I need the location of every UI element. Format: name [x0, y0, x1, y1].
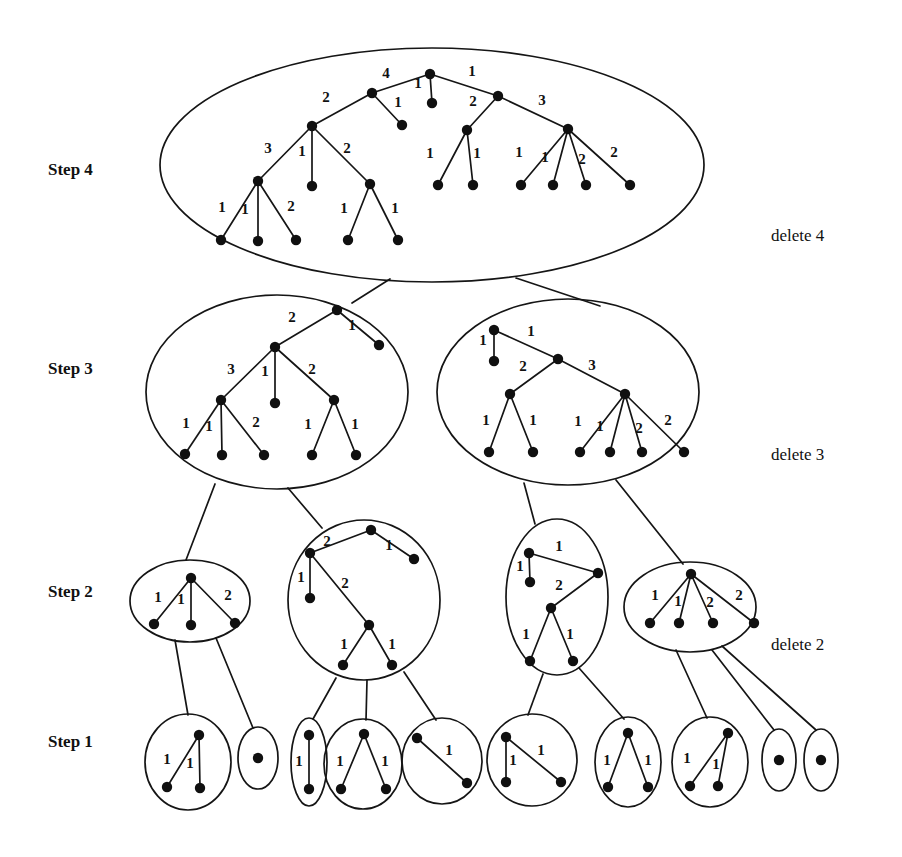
group-ellipse-g3b — [437, 299, 699, 485]
edge-weight-label: 2 — [323, 533, 331, 549]
tree-node-n2a_b — [186, 620, 196, 630]
tree-node-n3b_la — [484, 447, 494, 457]
tree-node-n3b_mid — [553, 354, 563, 364]
tree-node-n1c_t — [304, 730, 314, 740]
tree-node-n3a_d — [307, 450, 317, 460]
edge-weight-label: 2 — [469, 93, 477, 109]
tree-edge-n3a_ml-n3a_a — [185, 400, 221, 454]
tree-node-n2d_b — [674, 618, 684, 628]
tree-node-n4_LLa — [253, 176, 263, 186]
edge-weight-label: 1 — [304, 416, 312, 432]
edge-weight-label: 2 — [664, 412, 672, 428]
tree-node-n3b_rc — [637, 447, 647, 457]
tree-node-n3b_r — [620, 389, 630, 399]
tree-node-n4_RRa — [516, 180, 526, 190]
tree-node-n3b_lb — [528, 447, 538, 457]
tree-node-n4_RRd — [625, 180, 635, 190]
edge-weight-label: 1 — [541, 149, 549, 165]
tree-node-n4_RR — [563, 124, 573, 134]
edge-weight-label: 2 — [706, 594, 714, 610]
tree-edge-n2b_l-n2b_m — [310, 553, 369, 625]
step-label-step-2: Step 2 — [48, 582, 93, 601]
tree-node-n3a_mm — [270, 398, 280, 408]
tree-node-n1i_c — [774, 755, 784, 765]
tree-node-n2b_r1 — [409, 554, 419, 564]
edge-weight-label: 2 — [288, 309, 296, 325]
edge-weight-label: 2 — [224, 587, 232, 603]
tree-node-n4_R — [493, 91, 503, 101]
tree-edge-n3a_m-n3a_mr — [275, 347, 334, 400]
tree-node-n4_L — [367, 88, 377, 98]
group-ellipse-g1f — [487, 714, 577, 806]
edge-weight-label: 4 — [382, 65, 390, 81]
tree-node-n2c_top — [524, 548, 534, 558]
tree-edge-n4_root-n4_R — [430, 74, 498, 96]
group-link-edge-13 — [676, 650, 707, 718]
tree-node-n3a_a — [180, 449, 190, 459]
group-link-edge-10 — [404, 672, 436, 720]
edge-weight-label: 2 — [252, 414, 260, 430]
tree-edge-n3a_ml-n3a_b — [221, 400, 222, 455]
edge-weight-label: 2 — [635, 420, 643, 436]
step-label-step-3: Step 3 — [48, 359, 93, 378]
group-link-edge-8 — [313, 678, 336, 719]
group-link-edge-7 — [216, 638, 253, 728]
tree-node-n2b_root — [366, 525, 376, 535]
tree-edge-n3b_top-n3b_mid — [494, 330, 558, 359]
edge-weight-label: 1 — [445, 742, 453, 758]
edge-weight-label: 1 — [603, 752, 611, 768]
edge-weight-label: 2 — [578, 151, 586, 167]
group-link-edge-3 — [288, 488, 322, 528]
group-link-edge-4 — [524, 483, 535, 524]
tree-edge-n1g_t-n1g_l — [608, 733, 628, 787]
tree-node-n2b_ma — [338, 660, 348, 670]
tree-node-n1a_l — [162, 782, 172, 792]
tree-edge-n3a_root-n3a_m — [275, 310, 337, 347]
tree-node-n1h_r — [713, 781, 723, 791]
tree-node-n2d_d — [749, 618, 759, 628]
tree-node-n3a_root — [332, 305, 342, 315]
tree-node-n4_LLc — [365, 179, 375, 189]
tree-edge-n4_LL-n4_LLc — [312, 126, 370, 184]
edge-weight-label: 1 — [674, 593, 682, 609]
tree-node-n1c_b — [304, 784, 314, 794]
edge-weight-label: 1 — [555, 538, 563, 554]
tree-node-n4_RL — [462, 125, 472, 135]
tree-node-n2b_mb — [387, 660, 397, 670]
tree-node-n4_RRc — [581, 180, 591, 190]
edge-weight-label: 2 — [610, 144, 618, 160]
tree-node-n2c_r — [593, 568, 603, 578]
edge-weight-label: 1 — [381, 753, 389, 769]
tree-node-n2a_a — [149, 619, 159, 629]
tree-node-n1f_br — [556, 777, 566, 787]
tree-node-n2b_ll — [305, 593, 315, 603]
edge-weight-label: 1 — [186, 755, 194, 771]
edge-weight-label: 1 — [340, 200, 348, 216]
tree-node-n2d_a — [645, 618, 655, 628]
tree-nodes — [149, 69, 826, 794]
group-ellipses — [130, 48, 838, 810]
tree-node-n3b_tc — [489, 356, 499, 366]
edge-weight-label: 2 — [341, 575, 349, 591]
tree-node-n4_x4 — [343, 235, 353, 245]
tree-node-n2c_mb — [568, 656, 578, 666]
tree-node-n1d_l — [336, 784, 346, 794]
tree-node-n4_x2 — [253, 236, 263, 246]
tree-node-n1d_r — [381, 784, 391, 794]
tree-node-n1b_c — [253, 753, 263, 763]
edge-weight-label: 1 — [537, 742, 545, 758]
tree-node-n1h_l — [685, 781, 695, 791]
edge-weight-label: 1 — [522, 626, 530, 642]
tree-node-n4_RLa — [433, 180, 443, 190]
edge-weight-label: 1 — [182, 415, 190, 431]
tree-node-n1a_r — [195, 783, 205, 793]
edge-weight-label: 1 — [574, 413, 582, 429]
delete-label-delete-4: delete 4 — [771, 226, 825, 245]
edge-weight-label: 1 — [241, 201, 249, 217]
tree-edge-n1d_t-n1d_l — [341, 734, 364, 789]
tree-node-n1g_l — [603, 782, 613, 792]
edge-weight-label: 1 — [295, 753, 303, 769]
group-link-edge-11 — [528, 674, 543, 715]
edge-weight-label: 1 — [482, 412, 490, 428]
tree-edge-n2b_root-n2b_l — [310, 530, 371, 553]
